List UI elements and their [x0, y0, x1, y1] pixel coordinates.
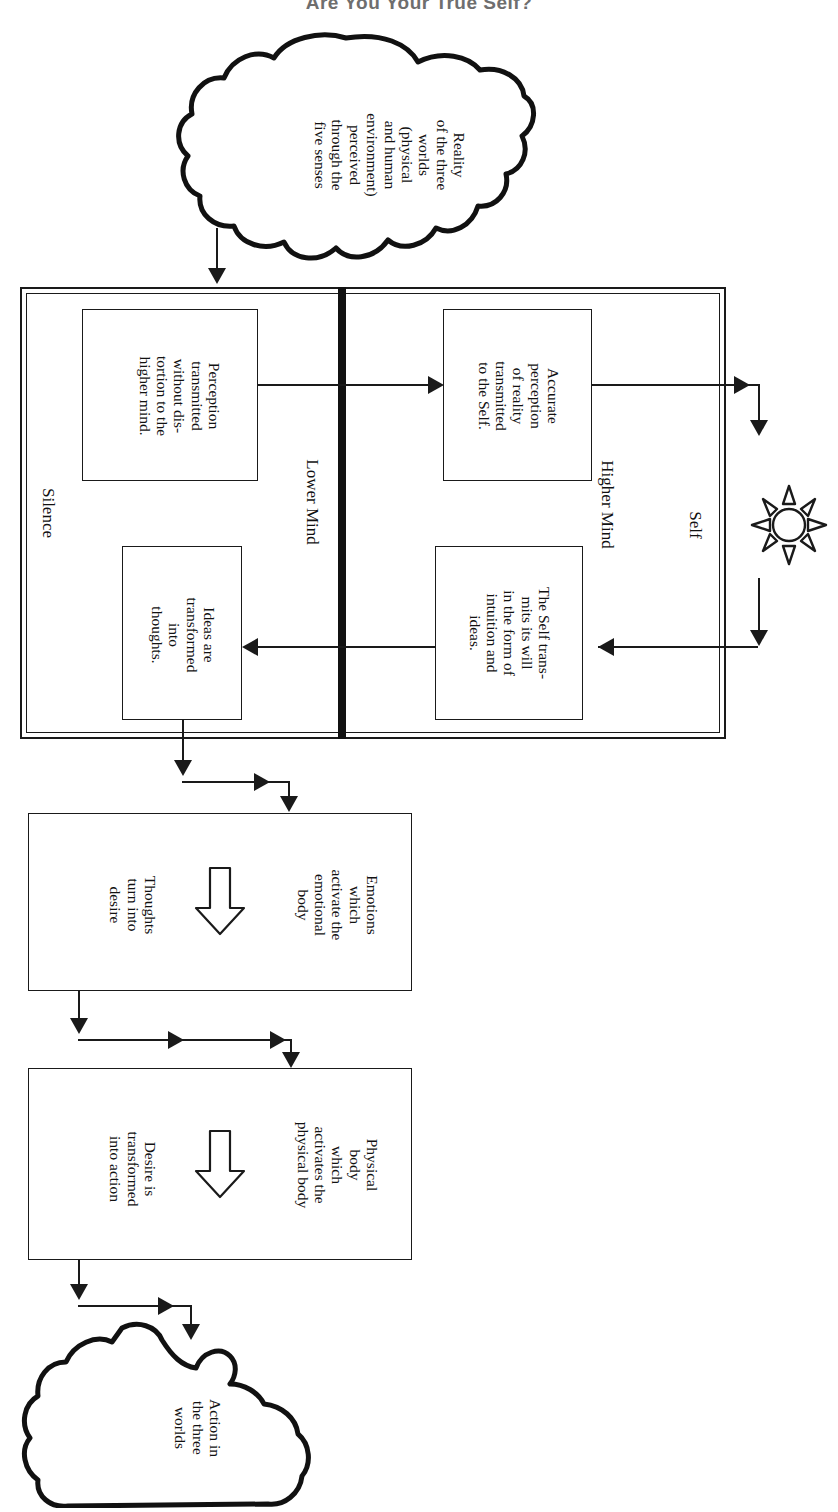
self-label: Self — [686, 495, 705, 555]
perception-box: Perception transmitted without dis- tort… — [82, 309, 258, 481]
physical-to-action-arrowhead-1 — [70, 1284, 88, 1300]
physical-head-text: Physical body which activates the physic… — [294, 1083, 381, 1247]
perception-to-accurate-line — [258, 384, 438, 386]
frame-to-emotions-arrowhead-1 — [174, 760, 192, 776]
self-to-transmits-line — [598, 646, 758, 648]
frame-to-emotions-arrowhead-2 — [254, 773, 270, 791]
transmits-to-ideas-line — [255, 646, 435, 648]
sun-icon — [750, 480, 828, 570]
emotions-to-physical-arrowhead-4 — [282, 1052, 300, 1068]
action-cloud-text: Action in the three worlds — [172, 1358, 224, 1498]
block-arrow-icon — [189, 864, 251, 938]
reality-cloud: Reality of the three worlds (physical an… — [150, 30, 540, 280]
perception-to-accurate-arrowhead — [428, 376, 444, 394]
emotions-to-physical-arrowhead-1 — [70, 1018, 88, 1034]
cloud-to-frame-arrowhead — [208, 268, 226, 284]
page-title: Are You Your True Self? — [0, 0, 838, 14]
mind-divider — [338, 287, 346, 739]
transmits-to-ideas-arrowhead — [242, 638, 258, 656]
physical-to-action-arrowhead-2 — [158, 1297, 174, 1315]
self-transmits-box: The Self trans- mits its will in the for… — [435, 546, 583, 720]
higher-mind-label: Higher Mind — [598, 437, 617, 572]
block-arrow-icon-shape — [189, 864, 251, 938]
emotions-to-physical-arrowhead-2 — [168, 1031, 184, 1049]
sun-icon-shape — [750, 480, 828, 570]
ideas-transformed-text: Ideas are transformed into thoughts. — [149, 565, 218, 705]
accurate-perception-text: Accurate perception of reality transmitt… — [475, 322, 562, 470]
accurate-to-self-arrowhead-right — [734, 376, 750, 394]
emotions-head-text: Emotions which activate the emotional bo… — [294, 830, 381, 980]
lower-mind-label: Lower Mind — [303, 437, 322, 567]
frame-to-emotions-arrowhead-3 — [280, 796, 298, 812]
block-arrow-icon-shape — [189, 1127, 251, 1201]
accurate-to-self-arrowhead-down — [750, 420, 768, 436]
self-transmits-text: The Self trans- mits its will in the for… — [466, 557, 553, 709]
block-arrow-icon — [189, 1127, 251, 1201]
frame-to-emotions-line-h — [182, 781, 288, 783]
accurate-perception-box: Accurate perception of reality transmitt… — [443, 309, 592, 481]
reality-cloud-text: Reality of the three worlds (physical an… — [312, 70, 468, 240]
emotions-to-physical-arrowhead-3 — [270, 1031, 286, 1049]
self-to-transmits-arrowhead — [598, 638, 614, 656]
perception-text: Perception transmitted without dis- tort… — [136, 322, 223, 470]
silence-label: Silence — [39, 468, 58, 558]
self-down-arrowhead — [750, 630, 768, 646]
emotional-body-box: Emotions which activate the emotional bo… — [28, 813, 412, 991]
physical-tail-text: Desire is transformed into action — [107, 1111, 159, 1227]
emotions-to-physical-line-h — [78, 1039, 290, 1041]
physical-body-box: Physical body which activates the physic… — [28, 1068, 412, 1260]
ideas-transformed-box: Ideas are transformed into thoughts. — [122, 546, 242, 720]
emotions-tail-text: Thoughts turn into desire — [107, 850, 159, 960]
action-cloud: Action in the three worlds — [16, 1318, 346, 1508]
